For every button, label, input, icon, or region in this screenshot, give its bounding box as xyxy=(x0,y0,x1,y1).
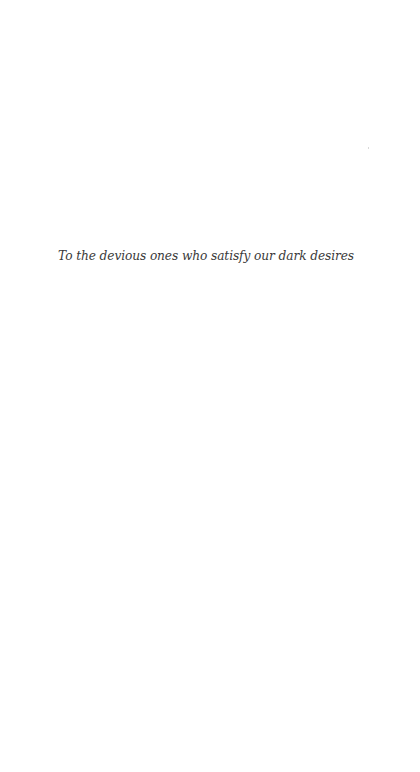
book-page: To the devious ones who satisfy our dark… xyxy=(0,0,420,772)
page-artifact xyxy=(368,147,369,149)
dedication-text: To the devious ones who satisfy our dark… xyxy=(0,247,412,265)
